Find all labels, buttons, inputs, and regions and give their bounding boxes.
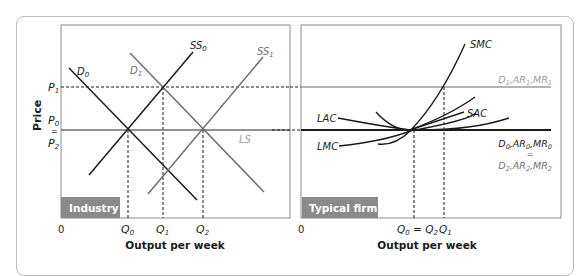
d2-ar2-mr2-label: D2,AR2,MR2	[498, 160, 552, 173]
firm-label: Typical firm	[309, 202, 377, 214]
d1-label: D1	[130, 65, 142, 78]
firm-q1-tick: Q1	[439, 223, 452, 237]
d1-ar1-mr1-label: D1,AR1,MR1	[498, 74, 552, 87]
ss0-label: SS0	[190, 40, 207, 53]
right-origin: 0	[298, 224, 304, 235]
d0-label: D0	[77, 66, 90, 79]
left-xaxis-label: Output per week	[125, 239, 226, 251]
d0-curve	[69, 68, 197, 200]
industry-plot-area	[61, 25, 290, 218]
sac-label: SAC	[467, 108, 487, 119]
q0-q2-tick: Q0 = Q2	[397, 223, 438, 237]
p-equals: =	[51, 127, 58, 136]
q0-tick: Q0	[121, 223, 135, 237]
firm-equals: =	[527, 150, 534, 159]
price-axis-label: Price	[31, 100, 44, 131]
lmc-label: LMC	[317, 141, 338, 152]
firm-panel: SMC SAC LAC LMC D1,AR1,MR1 D0,AR0,MR0 = …	[298, 25, 561, 251]
p1-tick: P1	[48, 81, 59, 95]
industry-panel: D0 D1 SS0 SS1 LS P1 P0 = P2 Price 0 Q0 Q…	[31, 25, 290, 251]
smc-label: SMC	[470, 39, 492, 50]
right-xaxis-label: Output per week	[377, 239, 478, 251]
p2-tick: P2	[48, 137, 60, 151]
d1-curve	[130, 53, 264, 192]
left-origin: 0	[58, 224, 64, 235]
lac-label: LAC	[317, 113, 336, 124]
ls-label: LS	[239, 134, 252, 145]
q2-tick: Q2	[196, 223, 210, 237]
ss1-label: SS1	[257, 46, 274, 59]
industry-label: Industry	[69, 202, 119, 214]
p0-tick: P0	[48, 114, 60, 128]
d0-ar0-mr0-label: D0,AR0,MR0	[498, 138, 552, 151]
q1-tick: Q1	[156, 223, 169, 237]
